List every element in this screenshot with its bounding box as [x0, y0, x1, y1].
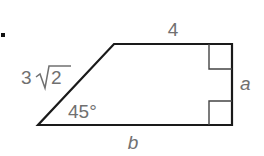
- right-side-label: a: [240, 73, 251, 94]
- slant-side-coefficient: 3: [21, 67, 32, 88]
- trapezoid-diagram: 4 3 2 45° a b: [0, 0, 264, 156]
- top-side-label: 4: [168, 19, 179, 40]
- bottom-side-label: b: [128, 132, 139, 153]
- angle-label: 45°: [68, 101, 97, 122]
- slant-side-radicand: 2: [51, 67, 62, 88]
- list-marker-dot: [1, 33, 5, 37]
- right-angle-marker-bottom: [209, 101, 232, 125]
- right-angle-marker-top: [209, 44, 232, 69]
